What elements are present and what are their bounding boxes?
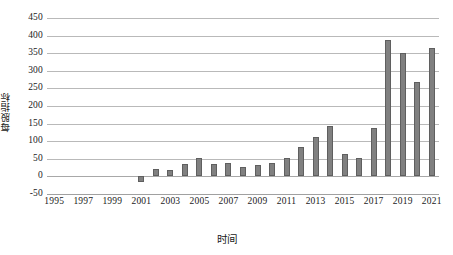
- y-axis-tick-labels: 450400350300250200150100500-50: [0, 18, 43, 194]
- bar: [182, 164, 188, 176]
- y-axis-tick-label: 100: [28, 136, 43, 146]
- bar: [255, 165, 261, 177]
- x-axis-tick-label: 2001: [131, 197, 151, 207]
- bar: [196, 158, 202, 177]
- gridline: [47, 194, 439, 195]
- x-axis-tick-label: 2013: [306, 197, 326, 207]
- y-axis-tick-label: 200: [28, 101, 43, 111]
- y-axis-tick-label: -50: [30, 189, 43, 199]
- y-axis-tick-label: 0: [38, 171, 43, 181]
- x-axis-title: 时间: [0, 231, 453, 246]
- bar: [385, 40, 391, 177]
- bar: [167, 170, 173, 176]
- x-axis-tick-label: 2003: [161, 197, 181, 207]
- x-axis-tick-label: 1999: [102, 197, 122, 207]
- y-axis-tick-label: 450: [28, 13, 43, 23]
- bar: [414, 82, 420, 176]
- y-axis-tick-label: 400: [28, 31, 43, 41]
- bar: [240, 167, 246, 177]
- x-axis-tick-label: 2009: [248, 197, 268, 207]
- y-axis-tick-label: 250: [28, 83, 43, 93]
- bar: [225, 163, 231, 176]
- x-axis-tick-label: 2017: [364, 197, 384, 207]
- bar: [298, 147, 304, 176]
- plot-area: [47, 18, 439, 194]
- bar: [269, 163, 275, 176]
- bar: [153, 169, 159, 177]
- bar: [400, 53, 406, 176]
- x-axis-tick-label: 2005: [190, 197, 210, 207]
- x-axis-tick-label: 2015: [335, 197, 355, 207]
- bar-chart: 每股指标 450400350300250200150100500-50 1995…: [0, 0, 453, 255]
- bar: [284, 158, 290, 176]
- x-axis-tick-label: 1995: [44, 197, 64, 207]
- x-axis-tick-label: 1997: [73, 197, 93, 207]
- y-axis-tick-label: 350: [28, 48, 43, 58]
- bar: [429, 48, 435, 176]
- bar-series: [47, 18, 439, 194]
- y-axis-tick-label: 300: [28, 66, 43, 76]
- bar: [138, 176, 144, 181]
- bar: [211, 164, 217, 177]
- x-axis-tick-label: 2021: [422, 197, 442, 207]
- bar: [342, 154, 348, 177]
- bar: [313, 137, 319, 176]
- x-axis-tick-labels: 1995199719992001200320052007200920112013…: [47, 197, 439, 213]
- x-axis-tick-label: 2007: [219, 197, 239, 207]
- bar: [371, 128, 377, 177]
- x-axis-tick-label: 2019: [393, 197, 413, 207]
- y-axis-tick-label: 150: [28, 119, 43, 129]
- bar: [327, 126, 333, 176]
- x-axis-tick-label: 2011: [277, 197, 296, 207]
- y-axis-tick-label: 50: [33, 154, 43, 164]
- bar: [356, 158, 362, 176]
